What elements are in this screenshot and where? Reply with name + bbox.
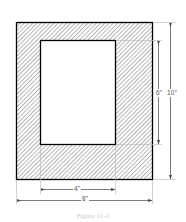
dimension-label-outer-width: 8" [81, 195, 89, 203]
figure-caption: Figure 11-2 [0, 212, 186, 221]
dimension-label-inner-height: 6" [155, 89, 163, 97]
technical-drawing-figure: 6" 10" 4" 8" Figure 11-2 [0, 0, 186, 222]
inner-rectangle-outline [41, 41, 116, 145]
dimension-label-outer-height: 10" [166, 89, 178, 97]
drawing-canvas [0, 0, 186, 222]
dimension-label-inner-width: 4" [73, 185, 81, 193]
